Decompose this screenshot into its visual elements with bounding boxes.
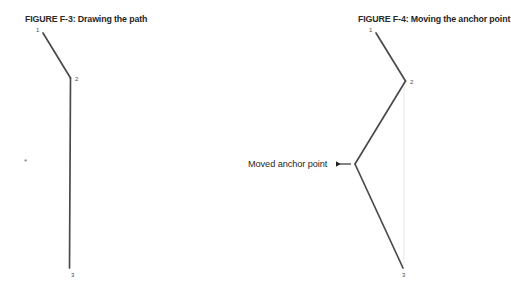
path-segment-anchor-3 <box>355 164 403 268</box>
figure-page: FIGURE F-3: Drawing the path 1 2 3 * FIG… <box>0 0 511 285</box>
figure-f-4-point-label-1: 1 <box>369 27 372 33</box>
figure-f-4-drawing <box>0 0 511 285</box>
annotation-arrow-head <box>336 161 341 167</box>
moved-anchor-point-annotation: Moved anchor point <box>248 158 327 169</box>
figure-f-4-caption: FIGURE F-4: Moving the anchor point <box>358 13 510 24</box>
path-segment-1-2 <box>376 33 406 81</box>
figure-f-4-point-label-3: 3 <box>402 272 405 278</box>
figure-f-4-point-label-2: 2 <box>410 79 413 85</box>
figure-f-4-caption-number: FIGURE F-4: <box>358 13 408 24</box>
figure-f-4-caption-title: Moving the anchor point <box>411 13 510 24</box>
path-segment-2-anchor <box>355 81 406 164</box>
figure-f-4: FIGURE F-4: Moving the anchor point 1 2 … <box>0 0 511 285</box>
